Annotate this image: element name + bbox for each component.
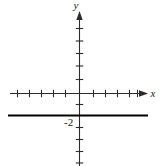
y-intercept-label: -2 <box>64 116 73 128</box>
x-axis-label: x <box>150 87 156 99</box>
y-axis-label: y <box>73 0 79 11</box>
y-axis-arrowhead <box>76 11 82 20</box>
coordinate-graph-figure: y x -2 <box>0 0 161 166</box>
graph-canvas: y x -2 <box>0 0 161 166</box>
x-axis-arrowhead <box>139 90 148 96</box>
